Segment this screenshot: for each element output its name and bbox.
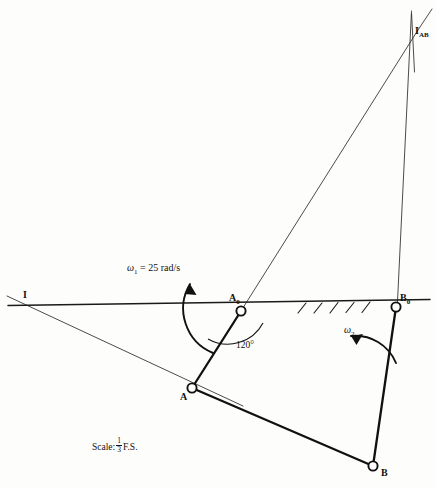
hatch-mark [362,302,370,313]
omega1-arc [183,284,213,353]
label-point-A0-subscript: 0 [236,298,240,306]
linkage-bars [192,307,396,466]
hatch-mark [330,303,338,314]
ground-line-group [8,300,430,306]
label-point-B0-text: B [400,292,407,303]
joint-marker-a0 [236,306,245,315]
label-angle-120-text: 120° [236,340,254,350]
diagram-canvas: I A0 B0 A B IAB ω1 = 25 rad/s ω2 120° Sc… [0,0,436,488]
label-point-IAB-subscript: AB [419,31,429,39]
construction-line-iab-lower-stub [412,14,415,72]
label-point-A-text: A [180,391,187,402]
label-scale-prefix: Scale: [92,442,115,452]
label-point-A0: A0 [229,293,240,306]
label-point-B-text: B [381,467,388,478]
joint-marker-a [187,383,196,392]
label-omega1-value: = 25 rad/s [140,262,180,273]
label-point-B: B [381,468,388,478]
label-point-IAB: IAB [415,26,429,39]
omega1-arrow [183,284,213,353]
hatch-mark [314,303,322,313]
link-coupler-a-b [192,388,373,466]
label-point-I: I [23,290,27,300]
label-point-A: A [180,392,187,402]
ground-line [8,300,430,306]
label-omega2-symbol: ω [344,324,351,335]
link-crank-a0-a [192,311,241,388]
label-scale-suffix: F.S. [123,442,138,452]
label-point-I-text: I [23,289,27,300]
label-scale: Scale:13F.S. [92,437,138,453]
label-scale-denominator: 3 [116,446,122,454]
label-angle-120: 120° [236,341,254,351]
construction-line-a0-iab [241,30,418,311]
hatch-mark [346,303,354,313]
label-omega1: ω1 = 25 rad/s [127,263,180,276]
label-omega2: ω2 [344,325,355,338]
construction-line-b0-iab [397,11,412,312]
label-omega1-subscript: 1 [134,268,138,276]
link-rocker-b0-b [373,307,396,466]
joint-markers [187,302,400,470]
hatch-mark [298,303,306,313]
label-scale-fraction: 13 [116,437,122,453]
ground-hatching [298,302,370,313]
joint-marker-b [368,461,377,470]
label-point-B0: B0 [400,293,410,306]
linkage-figure [0,0,436,488]
label-point-B0-subscript: 0 [407,298,411,306]
label-omega1-symbol: ω [127,262,134,273]
label-omega2-subscript: 2 [351,330,355,338]
